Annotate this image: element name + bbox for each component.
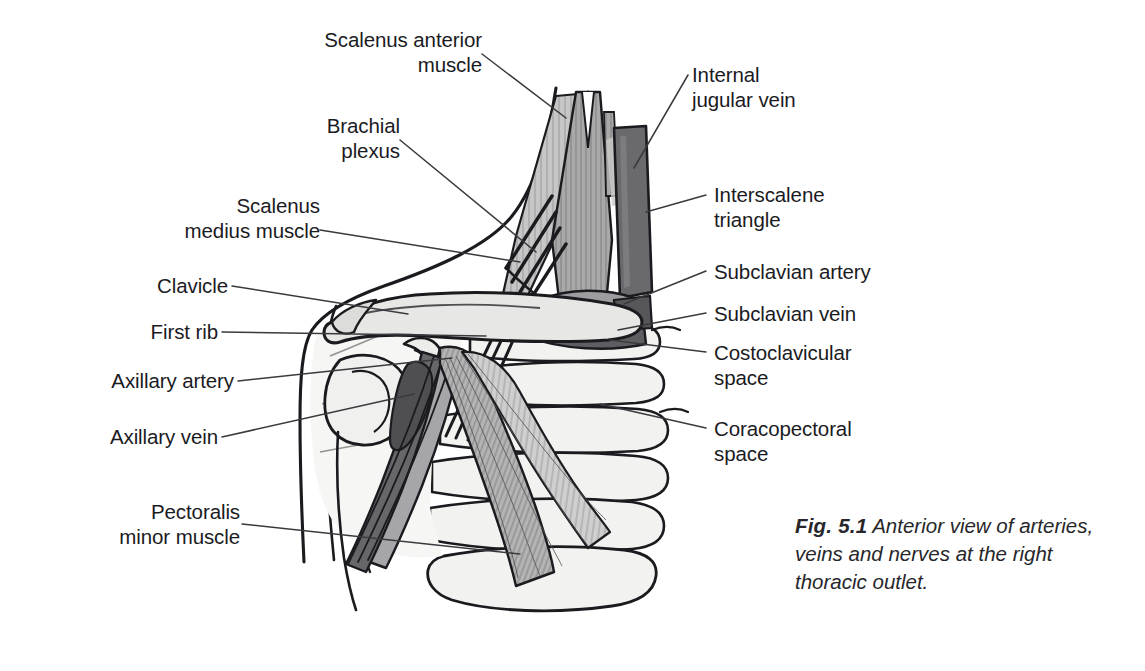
label-interscalene-triangle: Interscalene triangle (714, 182, 944, 232)
label-first-rib: First rib (62, 319, 218, 344)
label-brachial-plexus: Brachial plexus (160, 113, 400, 163)
label-pectoralis-minor-muscle: Pectoralis minor muscle (60, 499, 240, 549)
label-subclavian-vein: Subclavian vein (714, 301, 964, 326)
label-coracopectoral-space: Coracopectoral space (714, 416, 964, 466)
leader-internal-jugular (634, 75, 688, 168)
figure-page: Anterior view of the right thoracic outl… (0, 0, 1145, 671)
figure-caption: Fig. 5.1 Anterior view of arteries, vein… (795, 512, 1095, 596)
label-clavicle: Clavicle (62, 273, 228, 298)
label-scalenus-anterior-muscle: Scalenus anterior muscle (200, 27, 482, 77)
label-axillary-artery: Axillary artery (28, 368, 234, 393)
figure-number: Fig. 5.1 (795, 514, 867, 537)
leader-scalenus-anterior (482, 54, 566, 118)
leader-interscalene-triangle (646, 195, 706, 212)
label-internal-jugular-vein: Internal jugular vein (692, 62, 922, 112)
label-scalenus-medius-muscle: Scalenus medius muscle (80, 193, 320, 243)
rib-cartilage-mark-1 (652, 327, 680, 330)
label-subclavian-artery: Subclavian artery (714, 259, 964, 284)
leader-brachial-plexus (400, 140, 536, 252)
label-costoclavicular-space: Costoclavicular space (714, 340, 964, 390)
label-axillary-vein: Axillary vein (28, 424, 218, 449)
rib-cartilage-mark-2 (660, 409, 688, 412)
